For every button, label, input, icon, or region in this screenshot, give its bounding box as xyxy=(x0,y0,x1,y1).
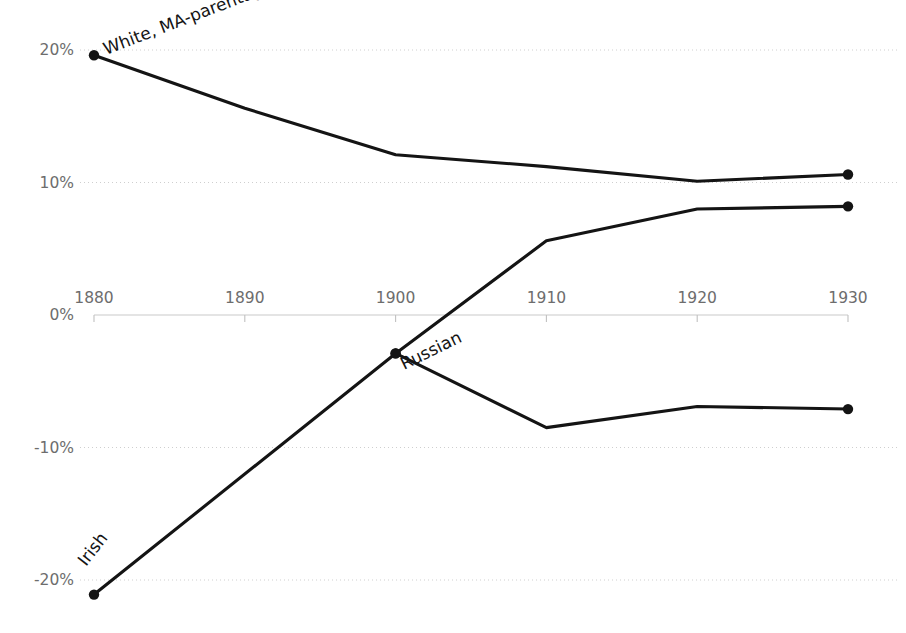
x-tick-label: 1910 xyxy=(527,289,566,307)
series-labels: White, MA-parentageRussianIrish xyxy=(73,0,464,569)
x-tick-label: 1900 xyxy=(376,289,415,307)
x-tick-label: 1930 xyxy=(828,289,867,307)
y-tick-label: 10% xyxy=(40,174,74,192)
series-markers xyxy=(89,50,853,600)
x-tick-label: 1920 xyxy=(677,289,716,307)
series-label: Irish xyxy=(73,528,111,569)
line-chart: 20%10%0%-10%-20% 18801890190019101920193… xyxy=(0,0,906,633)
series-lines xyxy=(94,55,848,594)
series-endpoint-marker xyxy=(89,589,99,599)
y-tick-label: -10% xyxy=(34,439,74,457)
series-label: Russian xyxy=(397,327,465,374)
series-endpoint-marker xyxy=(843,169,853,179)
series-endpoint-marker xyxy=(843,404,853,414)
x-axis xyxy=(94,315,848,322)
y-tick-label: -20% xyxy=(34,571,74,589)
y-tick-label: 0% xyxy=(49,306,74,324)
x-tick-label: 1880 xyxy=(74,289,113,307)
y-tick-labels: 20%10%0%-10%-20% xyxy=(34,41,74,589)
series-line xyxy=(94,55,848,181)
x-tick-label: 1890 xyxy=(225,289,264,307)
series-endpoint-marker xyxy=(843,201,853,211)
y-tick-label: 20% xyxy=(40,41,74,59)
series-line xyxy=(396,206,848,353)
series-line xyxy=(94,353,848,594)
series-endpoint-marker xyxy=(89,50,99,60)
chart-canvas: 20%10%0%-10%-20% 18801890190019101920193… xyxy=(0,0,906,633)
